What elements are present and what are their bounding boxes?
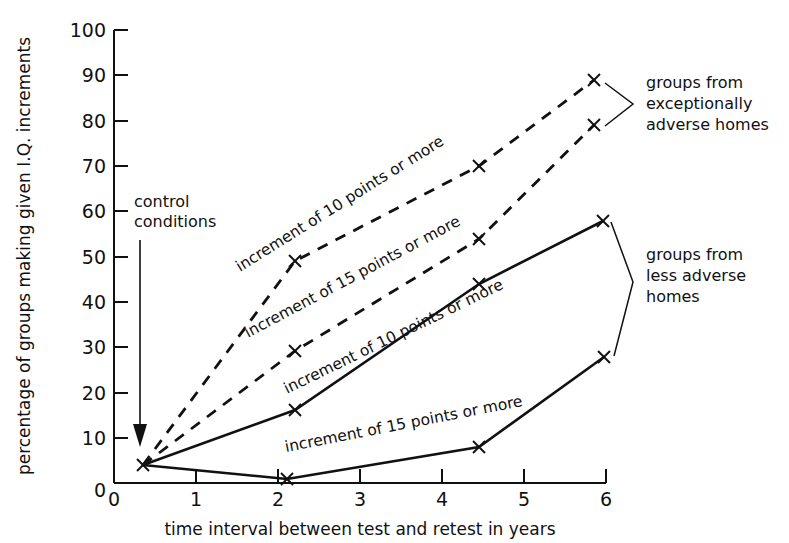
y-tick-label-90: 90 [82, 64, 106, 86]
less-adverse-line-3: homes [646, 287, 700, 306]
y-axis-title: percentage of groups making given I.Q. i… [14, 37, 34, 475]
exceptionally-adverse-brace [605, 83, 633, 126]
less-adverse-line-2: less adverse [646, 266, 746, 285]
x-axis-tick-labels: 0 1 2 3 4 5 6 [108, 488, 612, 510]
y-tick-label-60: 60 [82, 200, 106, 222]
series-line-4 [143, 357, 604, 479]
y-tick-label-80: 80 [82, 110, 106, 132]
y-tick-label-30: 30 [82, 336, 106, 358]
annotation-exceptionally-adverse-homes: groups from exceptionally adverse homes [605, 73, 769, 134]
x-tick-label-1: 1 [190, 488, 202, 510]
curve-label-4: increment of 15 points or more [283, 392, 524, 456]
less-adverse-line-1: groups from [646, 245, 743, 264]
control-conditions-arrow-head [133, 424, 147, 447]
x-tick-label-4: 4 [436, 488, 448, 510]
x-tick-label-6: 6 [600, 488, 612, 510]
exceptionally-adverse-line-1: groups from [646, 73, 743, 92]
y-tick-label-70: 70 [82, 155, 106, 177]
x-tick-label-3: 3 [354, 488, 366, 510]
less-adverse-brace [611, 222, 633, 356]
exceptionally-adverse-line-2: exceptionally [646, 94, 752, 113]
x-axis-title: time interval between test and retest in… [164, 519, 555, 539]
series-solid-15-less-adverse: increment of 15 points or more [143, 351, 610, 485]
y-axis-tick-labels: 100 90 80 70 60 50 40 30 20 10 0 [70, 19, 106, 501]
y-tick-label-20: 20 [82, 382, 106, 404]
y-tick-label-100: 100 [70, 19, 106, 41]
x-tick-label-0: 0 [108, 488, 120, 510]
chart-svg: 100 90 80 70 60 50 40 30 20 10 0 0 1 2 [0, 0, 789, 543]
control-conditions-line-1: control [134, 192, 189, 211]
iq-increment-line-chart: 100 90 80 70 60 50 40 30 20 10 0 0 1 2 [0, 0, 789, 543]
x-tick-label-5: 5 [518, 488, 530, 510]
series-dashed-15-exceptionally-adverse: increment of 15 points or more [143, 119, 600, 465]
x-axis-ticks [114, 469, 606, 483]
annotation-less-adverse-homes: groups from less adverse homes [611, 222, 746, 356]
curve-label-1: increment of 10 points or more [233, 132, 447, 275]
exceptionally-adverse-line-3: adverse homes [646, 115, 769, 134]
y-tick-label-0: 0 [94, 479, 106, 501]
y-axis-ticks [114, 30, 128, 438]
y-tick-label-50: 50 [82, 246, 106, 268]
control-conditions-line-2: conditions [134, 212, 216, 231]
x-tick-label-2: 2 [272, 488, 284, 510]
y-tick-label-40: 40 [82, 291, 106, 313]
y-tick-label-10: 10 [82, 427, 106, 449]
annotation-control-conditions: control conditions [133, 192, 216, 447]
